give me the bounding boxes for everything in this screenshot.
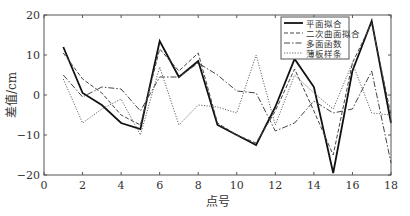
y-tick-label: 20 [26, 9, 40, 22]
legend-item-label: 平面拟合 [306, 19, 342, 29]
x-tick-label: 0 [41, 179, 48, 192]
x-tick-label: 16 [345, 179, 359, 192]
x-tick-label: 8 [195, 179, 202, 192]
x-tick-label: 6 [156, 179, 163, 192]
y-tick-label: −10 [17, 129, 40, 142]
line-chart: 024681012141618−20−1001020 点号 差值/cm 平面拟合… [0, 0, 410, 216]
x-tick-label: 10 [230, 179, 244, 192]
legend-item-label: 薄板样条 [306, 49, 342, 59]
y-axis-label: 差值/cm [4, 71, 19, 118]
x-axis-label: 点号 [206, 195, 230, 209]
x-tick-label: 14 [307, 179, 321, 192]
legend-item-label: 二次曲面拟合 [306, 29, 360, 39]
legend: 平面拟合二次曲面拟合多面函数薄板样条 [281, 17, 360, 59]
y-tick-label: 0 [33, 89, 40, 102]
x-tick-label: 2 [79, 179, 86, 192]
x-tick-label: 18 [384, 179, 398, 192]
legend-item-label: 多面函数 [306, 39, 342, 49]
y-tick-label: −20 [17, 169, 40, 182]
x-tick-label: 4 [118, 179, 125, 192]
y-tick-label: 10 [26, 49, 40, 62]
x-tick-label: 12 [268, 179, 282, 192]
chart-canvas: 024681012141618−20−1001020 点号 差值/cm 平面拟合… [0, 0, 410, 216]
